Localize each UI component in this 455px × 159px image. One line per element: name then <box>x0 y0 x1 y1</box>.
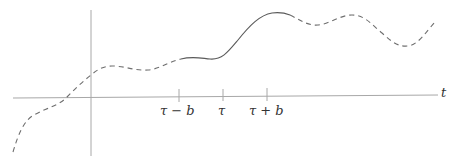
diagram-canvas <box>0 0 455 159</box>
curve-dashed-left <box>13 59 181 152</box>
tick-label-tau: τ <box>218 104 225 117</box>
curve-dashed-right <box>290 15 435 46</box>
curve-solid-window <box>181 13 290 59</box>
tick-label-tau-minus-b: τ − b <box>160 104 195 117</box>
horizontal-axis-label: t <box>441 86 446 99</box>
horizontal-axis <box>13 95 438 98</box>
tick-label-tau-plus-b: τ + b <box>249 104 284 117</box>
